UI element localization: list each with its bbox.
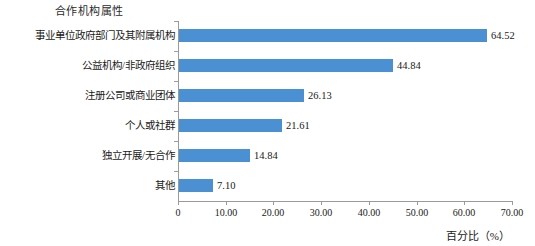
bar [179,149,250,162]
bar-value-label: 64.52 [491,29,515,42]
bar-value-label: 14.84 [254,149,278,162]
bar [179,89,304,102]
x-axis-tick [417,201,418,205]
category-label: 个人或社群 [2,119,178,132]
x-axis-tick [273,201,274,205]
category-label: 其他 [2,179,178,192]
y-axis-tick [174,21,178,22]
category-label: 独立开展/无合作 [2,149,178,162]
x-axis-tick [369,201,370,205]
bar-value-label: 44.84 [397,59,421,72]
x-axis-tick [321,201,322,205]
bar-value-label: 7.10 [217,179,235,192]
plot-area: 64.5244.8426.1321.6114.847.10 010.0020.0… [178,21,512,201]
x-axis-tick-label: 10.00 [215,207,238,218]
y-axis-tick [174,171,178,172]
bar-value-label: 21.61 [286,119,310,132]
category-label: 注册公司或商业团体 [2,89,178,102]
chart-title: 合作机构属性 [0,2,178,18]
y-axis-tick [174,111,178,112]
x-axis-tick [512,201,513,205]
x-axis-tick-label: 30.00 [310,207,333,218]
x-axis-tick-label: 70.00 [501,207,524,218]
x-axis-tick-label: 60.00 [453,207,476,218]
x-axis-tick-label: 50.00 [406,207,429,218]
y-axis-tick [174,81,178,82]
x-axis-tick-label: 20.00 [262,207,285,218]
category-label: 事业单位政府部门及其附属机构 [2,29,178,42]
bar [179,119,282,132]
category-axis-labels: 事业单位政府部门及其附属机构公益机构/非政府组织注册公司或商业团体个人或社群独立… [0,21,178,201]
category-label: 公益机构/非政府组织 [2,59,178,72]
x-axis-title: 百分比（%） [446,227,510,243]
y-axis-line [178,21,179,201]
x-axis-tick-label: 0 [176,207,181,218]
x-axis-tick [464,201,465,205]
x-axis-tick [226,201,227,205]
y-axis-tick [174,141,178,142]
y-axis-tick [174,51,178,52]
bar [179,29,487,42]
bar [179,59,393,72]
bar-chart: 合作机构属性 事业单位政府部门及其附属机构公益机构/非政府组织注册公司或商业团体… [0,0,535,246]
x-axis-tick-label: 40.00 [358,207,381,218]
x-axis-line [178,201,512,202]
x-axis-tick [178,201,179,205]
bar [179,179,213,192]
bar-value-label: 26.13 [308,89,332,102]
